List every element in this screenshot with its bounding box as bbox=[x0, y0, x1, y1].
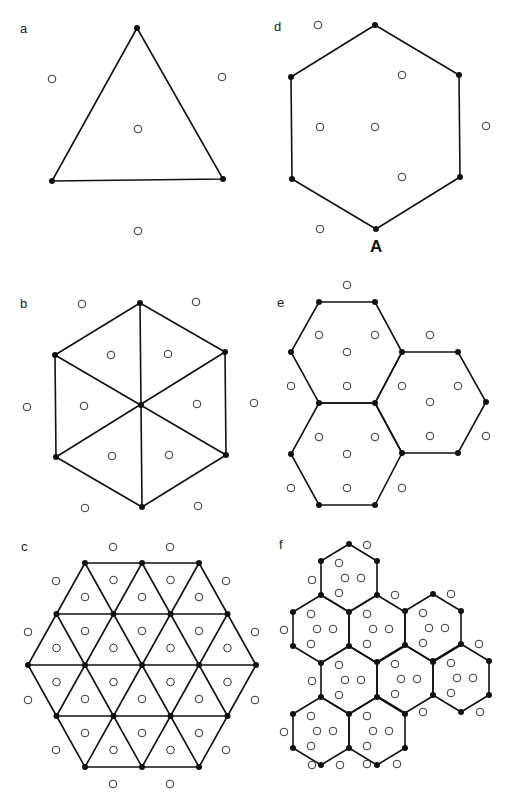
panel-f bbox=[280, 541, 492, 769]
panel-d bbox=[288, 21, 490, 233]
panel-c bbox=[24, 543, 259, 788]
panel-b bbox=[23, 298, 258, 512]
panel-e bbox=[287, 281, 490, 508]
panel-a bbox=[48, 25, 226, 235]
lattice-diagram bbox=[0, 0, 510, 801]
